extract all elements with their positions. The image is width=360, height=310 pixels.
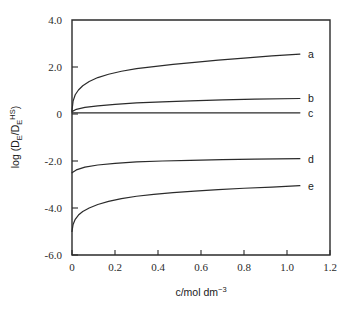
x-tick-label: 1.2 — [323, 261, 337, 273]
x-tick-label: 0.6 — [194, 261, 208, 273]
x-axis-title: c/mol dm−3 — [175, 285, 226, 298]
curve-d — [72, 159, 300, 173]
data-series-group — [72, 54, 300, 231]
series-label-d: d — [308, 153, 314, 165]
x-tick-label: 1.0 — [280, 261, 294, 273]
series-label-b: b — [308, 92, 314, 104]
svg-text:log (DE/DEHS): log (DE/DEHS) — [8, 106, 24, 168]
series-labels-group: abcde — [308, 48, 314, 192]
diffusion-ratio-line-chart: 00.20.40.60.81.01.2 -6.0-4.0-2.002.04.0 … — [0, 0, 360, 310]
x-tick-label: 0.8 — [237, 261, 251, 273]
svg-text:c/mol dm−3: c/mol dm−3 — [175, 285, 226, 298]
curve-e — [72, 186, 300, 232]
y-tick-label: 0 — [57, 108, 63, 120]
y-tick-label: 2.0 — [48, 61, 62, 73]
y-axis-tick-labels: -6.0-4.0-2.002.04.0 — [45, 14, 63, 261]
curve-b — [72, 98, 300, 111]
x-axis-ticks — [72, 250, 330, 255]
series-label-e: e — [308, 180, 314, 192]
series-label-a: a — [308, 48, 314, 60]
y-tick-label: -6.0 — [45, 249, 63, 261]
x-axis-tick-labels: 00.20.40.60.81.01.2 — [69, 261, 337, 273]
x-tick-label: 0.2 — [108, 261, 122, 273]
y-axis-title: log (DE/DEHS) — [8, 106, 24, 168]
y-tick-label: -2.0 — [45, 155, 63, 167]
curve-a — [72, 54, 300, 110]
x-tick-label: 0.4 — [151, 261, 165, 273]
x-tick-label: 0 — [69, 261, 75, 273]
y-tick-label: 4.0 — [48, 14, 62, 26]
series-label-c: c — [308, 107, 313, 119]
chart-figure: 00.20.40.60.81.01.2 -6.0-4.0-2.002.04.0 … — [0, 0, 360, 310]
plot-frame — [72, 20, 330, 255]
y-tick-label: -4.0 — [45, 202, 63, 214]
